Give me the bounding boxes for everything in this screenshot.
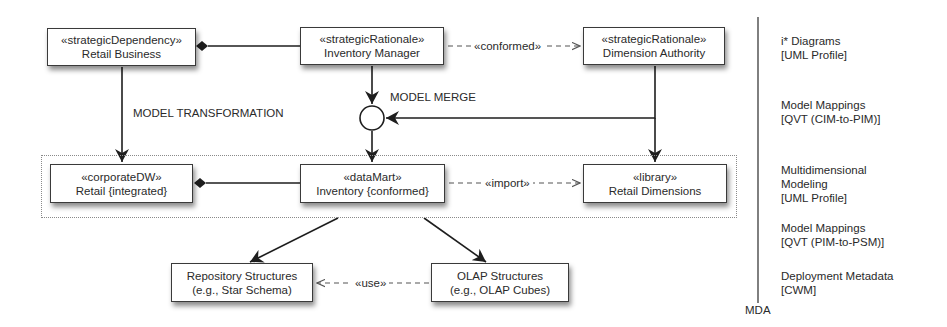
stereotype: «strategicDependency» <box>61 33 182 47</box>
conformed-label: «conformed» <box>471 39 544 53</box>
retail-integrated-box[interactable]: «corporateDW» Retail {integrated} <box>50 164 193 203</box>
model-merge-label: MODEL MERGE <box>390 90 476 104</box>
olap-structures-box[interactable]: OLAP Structures (e.g., OLAP Cubes) <box>431 263 569 302</box>
mda-layer-pim: Multidimensional Modeling [UML Profile] <box>781 163 867 205</box>
dimension-authority-box[interactable]: «strategicRationale» Dimension Authority <box>583 27 725 65</box>
psm-arrow-olap <box>424 218 486 262</box>
stereotype: «strategicRationale» <box>602 32 707 46</box>
diamond-icon <box>196 41 208 51</box>
inventory-conformed-box[interactable]: «dataMart» Inventory {conformed} <box>300 164 445 203</box>
mda-layer-psm: Deployment Metadata [CWM] <box>781 269 894 297</box>
retail-business-box[interactable]: «strategicDependency» Retail Business <box>47 28 196 66</box>
box-line-2: (e.g., OLAP Cubes) <box>450 283 550 297</box>
box-name: Inventory {conformed} <box>316 184 429 198</box>
box-name: Inventory Manager <box>324 46 420 60</box>
box-name: Retail Dimensions <box>609 184 702 198</box>
mda-label: MDA <box>745 303 771 317</box>
box-line-1: OLAP Structures <box>457 269 543 283</box>
mda-layer-cim-to-pim: Model Mappings [QVT (CIM-to-PIM)] <box>781 98 880 126</box>
use-label: «use» <box>352 276 389 290</box>
stereotype: «dataMart» <box>343 170 401 184</box>
inventory-manager-box[interactable]: «strategicRationale» Inventory Manager <box>300 27 444 65</box>
psm-arrow-repository <box>250 218 338 262</box>
composition-link-top <box>196 41 300 51</box>
stereotype: «strategicRationale» <box>320 32 425 46</box>
mda-layer-cim: i* Diagrams [UML Profile] <box>781 34 847 62</box>
stereotype: «library» <box>633 170 677 184</box>
retail-dimensions-box[interactable]: «library» Retail Dimensions <box>583 164 727 203</box>
box-name: Retail Business <box>82 47 161 61</box>
mda-layer-pim-to-psm: Model Mappings [QVT (PIM-to-PSM)] <box>781 221 884 249</box>
box-name: Retail {integrated} <box>76 184 167 198</box>
merge-node-icon <box>360 106 384 130</box>
box-name: Dimension Authority <box>603 46 705 60</box>
stereotype: «corporateDW» <box>81 170 162 184</box>
box-line-1: Repository Structures <box>187 269 298 283</box>
box-line-2: (e.g., Star Schema) <box>192 283 292 297</box>
model-transformation-label: MODEL TRANSFORMATION <box>133 106 284 120</box>
import-label: «import» <box>482 176 533 190</box>
repository-structures-box[interactable]: Repository Structures (e.g., Star Schema… <box>171 263 313 302</box>
